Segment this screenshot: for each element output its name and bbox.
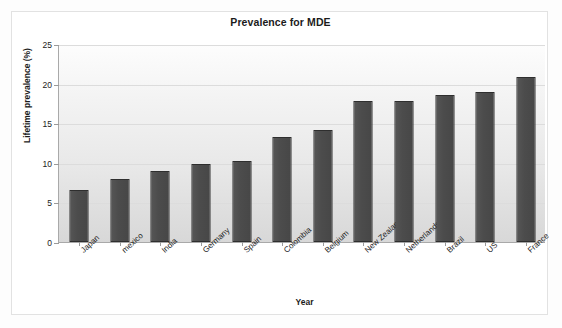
bar-group: Netherlands [384, 45, 425, 242]
bar[interactable] [354, 101, 373, 242]
bar[interactable] [516, 77, 535, 242]
bar[interactable] [435, 95, 454, 242]
bar-group: Colombia [262, 45, 303, 242]
x-axis-tick [526, 242, 527, 246]
y-axis-tick-label: 25 [43, 40, 52, 50]
bar-group: India [140, 45, 181, 242]
bar-group: US [465, 45, 506, 242]
bar-group: New Zealand [343, 45, 384, 242]
y-axis-tick-label: 0 [47, 238, 52, 248]
bar-group: Germany [181, 45, 222, 242]
y-axis-tick [54, 243, 59, 244]
bar-group: Belgium [303, 45, 344, 242]
bar-group: France [505, 45, 546, 242]
chart-title: Prevalence for MDE [12, 16, 549, 28]
x-axis-tick [404, 242, 405, 246]
y-axis-tick-label: 20 [43, 80, 52, 90]
y-axis-tick-label: 10 [43, 159, 52, 169]
y-axis-title: Lifetime prevalence (%) [22, 48, 32, 143]
bar[interactable] [232, 161, 251, 242]
bar-group: mexico [100, 45, 141, 242]
bar[interactable] [273, 137, 292, 242]
chart-frame: Prevalence for MDE Lifetime prevalence (… [11, 11, 548, 315]
x-axis-tick [323, 242, 324, 246]
bar[interactable] [476, 92, 495, 242]
bar[interactable] [110, 179, 129, 242]
bar[interactable] [313, 130, 332, 242]
x-axis-tick [445, 242, 446, 246]
bar[interactable] [151, 171, 170, 242]
bar[interactable] [192, 164, 211, 242]
x-axis-tick [120, 242, 121, 246]
plot-area: 0510152025 JapanmexicoIndiaGermanySpainC… [58, 45, 545, 243]
chart-screenshot: Prevalence for MDE Lifetime prevalence (… [0, 0, 562, 328]
bar-group: Brazil [424, 45, 465, 242]
bar[interactable] [394, 101, 413, 242]
x-axis-tick-label: US [485, 241, 499, 255]
bar[interactable] [70, 190, 89, 242]
bar-group: Japan [59, 45, 100, 242]
x-axis-title: Year [12, 297, 549, 307]
y-axis-tick-label: 5 [47, 198, 52, 208]
x-axis-tick [242, 242, 243, 246]
bar-group: Spain [221, 45, 262, 242]
y-axis-tick-label: 15 [43, 119, 52, 129]
